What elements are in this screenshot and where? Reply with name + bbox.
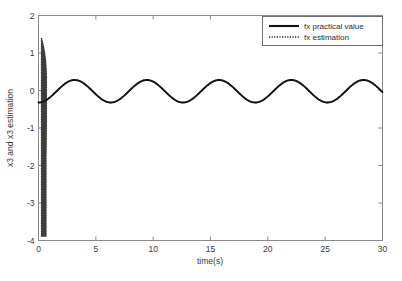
x-tick-label: 30 — [378, 244, 388, 254]
y-tick-label: 1 — [30, 48, 35, 58]
x-tick-label: 0 — [36, 244, 41, 254]
legend-label-estimation: fx estimation — [304, 33, 349, 42]
y-tick-label: 2 — [30, 11, 35, 21]
y-tick-label: -4 — [27, 236, 35, 246]
y-tick-label: -2 — [27, 161, 35, 171]
chart-plot: 051015202530 210-1-2-3-4 time(s) x3 and … — [0, 0, 402, 281]
y-tick-label: 0 — [30, 86, 35, 96]
x-tick-label: 15 — [206, 244, 216, 254]
x-axis-label: time(s) — [197, 256, 223, 266]
x-tick-label: 5 — [93, 244, 98, 254]
legend: fx practical value fx estimation — [263, 17, 383, 46]
x-tick-label: 20 — [263, 244, 273, 254]
y-tick-label: -1 — [27, 123, 35, 133]
series-fx-estimation-transient — [41, 38, 46, 237]
y-tick-label: -3 — [27, 198, 35, 208]
y-axis-label: x3 and x3 estimation — [5, 89, 15, 167]
x-tick-label: 10 — [148, 244, 158, 254]
legend-label-practical: fx practical value — [304, 22, 364, 31]
x-tick-label: 25 — [320, 244, 330, 254]
figure-canvas: 051015202530 210-1-2-3-4 time(s) x3 and … — [0, 0, 402, 281]
